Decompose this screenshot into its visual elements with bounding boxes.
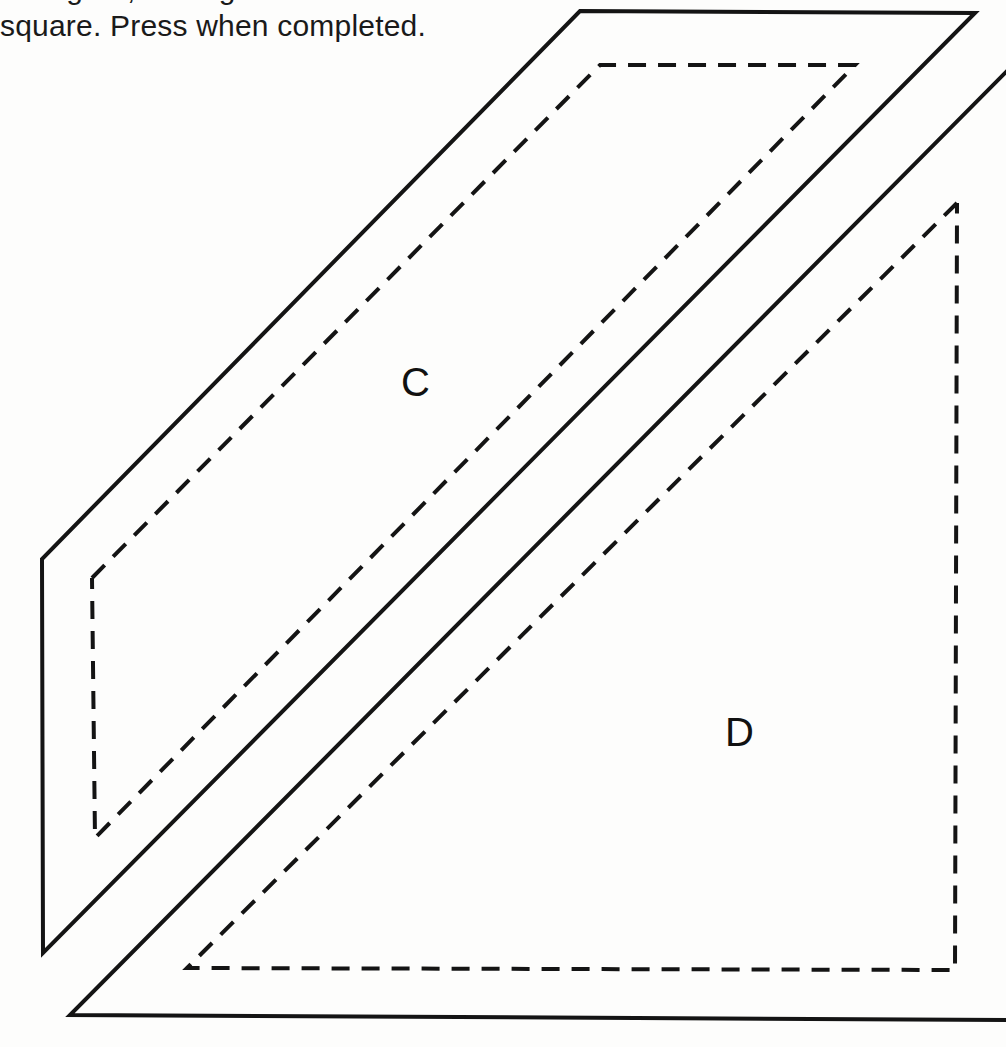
shape-d-dashed-outline — [187, 203, 957, 970]
shape-d-solid-outline — [70, 72, 1006, 1020]
figure-page: the figure, tracing a written square. Pr… — [0, 0, 1006, 1047]
shape-label-d: D — [725, 712, 754, 752]
shape-c-solid-outline — [42, 11, 975, 953]
shape-label-c: C — [401, 362, 430, 402]
embedded-figures-drawing — [0, 0, 1006, 1047]
